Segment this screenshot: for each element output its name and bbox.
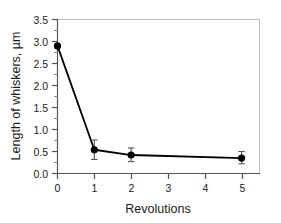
y-tick-label: 3.5 [33, 14, 48, 26]
y-tick-label: 2.0 [33, 80, 48, 92]
line-chart: 3.5 3.0 2.5 2.0 1.5 1.0 0.5 0.0 0 1 2 3 … [0, 0, 281, 223]
x-tick-label: 0 [55, 182, 61, 194]
y-tick-label: 2.5 [33, 58, 48, 70]
x-tick-label: 4 [203, 182, 209, 194]
x-tick-label: 1 [92, 182, 98, 194]
x-axis-title: Revolutions [125, 202, 190, 216]
y-tick-label: 0.5 [33, 146, 48, 158]
data-point [54, 42, 61, 49]
y-tick-label: 3.0 [33, 36, 48, 48]
data-point [238, 155, 245, 162]
y-tick-label: 1.0 [33, 124, 48, 136]
y-tick-label: 0.0 [33, 168, 48, 180]
x-tick-label: 2 [129, 182, 135, 194]
x-tick-label: 3 [166, 182, 172, 194]
y-axis-title: Length of whiskers, µm [9, 32, 23, 161]
y-tick-label: 1.5 [33, 102, 48, 114]
chart-figure: 3.5 3.0 2.5 2.0 1.5 1.0 0.5 0.0 0 1 2 3 … [0, 0, 281, 223]
data-point [128, 151, 135, 158]
x-tick-label: 5 [240, 182, 246, 194]
data-point [91, 146, 98, 153]
